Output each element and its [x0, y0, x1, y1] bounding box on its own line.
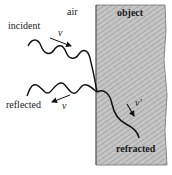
incident-wave: incident v [8, 20, 97, 92]
reflected-velocity-arrow [52, 95, 70, 102]
air-label: air [67, 6, 78, 17]
reflected-wave: reflected v [6, 83, 97, 111]
object-region [96, 5, 167, 165]
reflected-velocity-symbol: v [62, 100, 67, 111]
reflected-wave-path [27, 83, 97, 96]
wave-diagram: air object incident v reflected v v' ref… [0, 0, 172, 175]
refracted-label: refracted [116, 143, 156, 154]
object-label: object [117, 7, 144, 18]
incident-velocity-symbol: v [58, 27, 63, 38]
incident-velocity-arrow [50, 38, 71, 46]
reflected-label: reflected [6, 99, 41, 110]
incident-label: incident [8, 20, 40, 31]
refracted-velocity-symbol: v' [135, 97, 142, 108]
